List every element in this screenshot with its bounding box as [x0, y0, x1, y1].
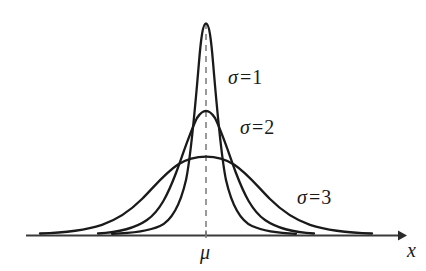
curve-label-sigma-2: σ=2 — [240, 117, 274, 137]
curve-label-sigma-1: σ=1 — [228, 67, 262, 87]
sigma-glyph-3: σ — [297, 186, 307, 208]
sigma-glyph-1: σ — [228, 66, 238, 88]
sigma-value-1: 1 — [252, 66, 262, 88]
curve-label-sigma-3: σ=3 — [297, 187, 331, 207]
equals-glyph-3: = — [309, 186, 320, 208]
equals-glyph-2: = — [252, 116, 263, 138]
mu-axis-label: μ — [200, 242, 210, 262]
figure-canvas — [0, 0, 426, 271]
sigma-glyph-2: σ — [240, 116, 250, 138]
arrow-right-icon — [398, 231, 407, 241]
sigma-value-3: 3 — [321, 186, 331, 208]
sigma-value-2: 2 — [264, 116, 274, 138]
x-axis-label: x — [407, 240, 416, 260]
equals-glyph-1: = — [240, 66, 251, 88]
normal-distribution-figure: σ=1 σ=2 σ=3 μ x — [0, 0, 426, 271]
